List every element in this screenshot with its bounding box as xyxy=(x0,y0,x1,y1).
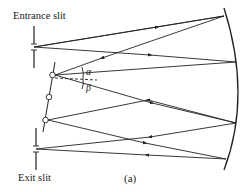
beta-label: β xyxy=(86,82,91,93)
ray-mirror-to-grating-3 xyxy=(48,100,236,123)
ray-entrance-to-mirror-2 xyxy=(34,47,236,62)
ray-mirror-to-exit-2 xyxy=(36,149,226,159)
alpha-label: α xyxy=(86,66,91,77)
entrance-slit-label: Entrance slit xyxy=(13,10,66,21)
ray-grating-to-mirror-2 xyxy=(48,120,226,159)
czerny-turner-diagram xyxy=(0,0,250,192)
beta-arc xyxy=(82,79,83,89)
ray-mirror-to-exit-1 xyxy=(36,123,236,149)
grating-normal xyxy=(55,78,97,80)
exit-slit-label: Exit slit xyxy=(18,172,51,183)
concave-mirror xyxy=(224,8,238,170)
figure-caption: (a) xyxy=(124,172,136,184)
ray-mirror-to-grating-1 xyxy=(55,16,224,75)
